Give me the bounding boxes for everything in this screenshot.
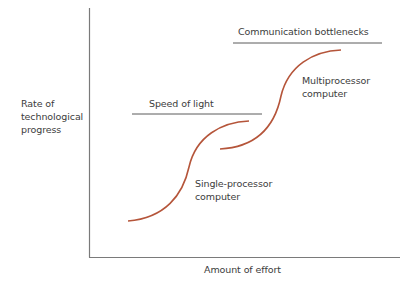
multiprocessor-label-line1: Multiprocessor	[302, 74, 370, 87]
single-processor-label-line2: computer	[195, 190, 272, 203]
y-axis-label-line1: Rate of	[21, 97, 83, 110]
diagram-plot	[0, 0, 400, 284]
communication-bottlenecks-label: Communication bottlenecks	[238, 25, 369, 38]
x-axis-label: Amount of effort	[204, 263, 281, 276]
y-axis-label-line3: progress	[21, 123, 83, 136]
single-processor-curve	[128, 121, 249, 221]
single-processor-label-line1: Single-processor	[195, 177, 272, 190]
y-axis-label: Rate of technological progress	[21, 97, 83, 136]
multiprocessor-label-line2: computer	[302, 87, 370, 100]
y-axis-label-line2: technological	[21, 110, 83, 123]
speed-of-light-label: Speed of light	[149, 97, 214, 110]
diagram-canvas: Rate of technological progress Amount of…	[0, 0, 400, 284]
single-processor-label: Single-processor computer	[195, 177, 272, 203]
multiprocessor-label: Multiprocessor computer	[302, 74, 370, 100]
